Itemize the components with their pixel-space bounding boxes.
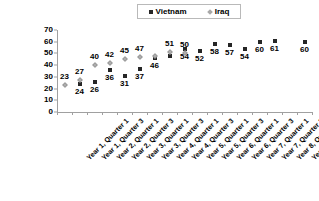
x-axis-tick-mark xyxy=(207,112,208,115)
data-point-vietnam xyxy=(213,42,217,46)
chart-legend: Vietnam Iraq xyxy=(137,4,241,19)
x-axis-tick-mark xyxy=(192,112,193,115)
data-point-vietnam xyxy=(243,47,247,51)
legend-item-vietnam: Vietnam xyxy=(149,7,187,16)
data-point-iraq xyxy=(122,56,128,62)
y-axis-tick-mark xyxy=(54,76,57,77)
legend-label-iraq: Iraq xyxy=(215,7,230,16)
data-label: 61 xyxy=(270,45,279,53)
x-axis-tick-mark xyxy=(222,112,223,115)
data-point-iraq xyxy=(107,60,113,66)
data-label: 42 xyxy=(105,51,114,59)
data-label: 37 xyxy=(135,73,144,81)
legend-marker-square-icon xyxy=(149,10,153,14)
x-axis-tick-mark xyxy=(267,112,268,115)
plot-area: 0102030405060702426363137465452585754606… xyxy=(57,30,312,112)
x-axis-tick-mark xyxy=(57,112,58,115)
legend-item-iraq: Iraq xyxy=(208,7,230,16)
data-point-vietnam xyxy=(138,67,142,71)
y-axis-tick-mark xyxy=(54,100,57,101)
data-point-vietnam xyxy=(303,40,307,44)
data-point-vietnam xyxy=(273,39,277,43)
x-axis-labels: Year 1, Quarter 1Year 1, Quarter 3Year 2… xyxy=(0,113,319,201)
y-axis-tick-mark xyxy=(54,88,57,89)
data-label: 46 xyxy=(150,62,159,70)
data-label: 31 xyxy=(120,80,129,88)
y-axis-tick-mark xyxy=(54,53,57,54)
data-point-vietnam xyxy=(108,68,112,72)
data-label: 24 xyxy=(75,88,84,96)
x-axis-tick-mark xyxy=(297,112,298,115)
data-label: 26 xyxy=(90,86,99,94)
x-axis-tick-mark xyxy=(132,112,133,115)
data-point-vietnam xyxy=(93,80,97,84)
x-axis-tick-mark xyxy=(162,112,163,115)
data-point-vietnam xyxy=(258,40,262,44)
data-label: 23 xyxy=(60,73,69,81)
y-axis-tick-mark xyxy=(54,65,57,66)
chart-container: Vietnam Iraq 010203040506070242636313746… xyxy=(0,0,319,201)
data-label: 36 xyxy=(105,74,114,82)
data-label: 60 xyxy=(255,46,264,54)
data-label: 47 xyxy=(135,45,144,53)
x-axis-tick-mark xyxy=(117,112,118,115)
x-axis-tick-mark xyxy=(312,112,313,115)
data-label: 52 xyxy=(195,55,204,63)
legend-label-vietnam: Vietnam xyxy=(156,7,187,16)
data-label: 54 xyxy=(240,53,249,61)
data-label: 27 xyxy=(75,68,84,76)
data-label: 40 xyxy=(90,53,99,61)
x-axis-tick-mark xyxy=(282,112,283,115)
data-point-iraq xyxy=(92,62,98,68)
data-label: 60 xyxy=(300,46,309,54)
data-point-iraq xyxy=(62,82,68,88)
data-point-iraq xyxy=(137,54,143,60)
y-axis-tick-mark xyxy=(54,30,57,31)
x-axis-tick-mark xyxy=(102,112,103,115)
data-label: 58 xyxy=(210,48,219,56)
data-point-vietnam xyxy=(228,43,232,47)
x-axis-tick-mark xyxy=(72,112,73,115)
data-label: 57 xyxy=(225,49,234,57)
x-axis-tick-mark xyxy=(177,112,178,115)
x-axis-tick-mark xyxy=(237,112,238,115)
data-label: 50 xyxy=(180,41,189,49)
legend-marker-diamond-icon xyxy=(207,9,213,15)
y-axis-tick-mark xyxy=(54,41,57,42)
x-axis-tick-mark xyxy=(87,112,88,115)
data-label: 45 xyxy=(120,47,129,55)
data-point-vietnam xyxy=(123,74,127,78)
data-point-vietnam xyxy=(198,49,202,53)
x-axis-tick-mark xyxy=(147,112,148,115)
x-axis-tick-mark xyxy=(252,112,253,115)
data-label: 51 xyxy=(165,40,174,48)
